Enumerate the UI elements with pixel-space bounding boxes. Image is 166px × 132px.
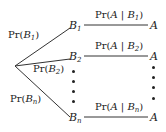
leaf-a-1: A [150, 20, 158, 31]
ellipsis-dot-b [72, 90, 75, 93]
node-bn: Bn [69, 112, 82, 125]
edge-label-pr-a-given-bn: Pr(A | Bn) [95, 102, 143, 114]
edge-label-pr-b2: Pr(B2) [33, 64, 64, 76]
edge-label-pr-b1: Pr(B1) [8, 30, 39, 42]
node-b2: B2 [69, 51, 82, 64]
ellipsis-dot-a [152, 86, 155, 89]
edge-label-pr-a-given-b2: Pr(A | B2) [95, 41, 143, 53]
ellipsis-dot-b [72, 70, 75, 73]
leaf-a-2: A [150, 51, 158, 62]
edge-label-pr-bn: Pr(Bn) [10, 94, 41, 106]
ellipsis-dot-a [152, 76, 155, 79]
ellipsis-dot-b [72, 80, 75, 83]
ellipsis-dot-b [72, 100, 75, 103]
ellipsis-dot-a [152, 66, 155, 69]
edge-label-pr-a-given-b1: Pr(A | B1) [95, 10, 143, 22]
ellipsis-dot-a [152, 97, 155, 100]
node-b1: B1 [69, 20, 82, 33]
leaf-a-n: A [150, 112, 158, 123]
